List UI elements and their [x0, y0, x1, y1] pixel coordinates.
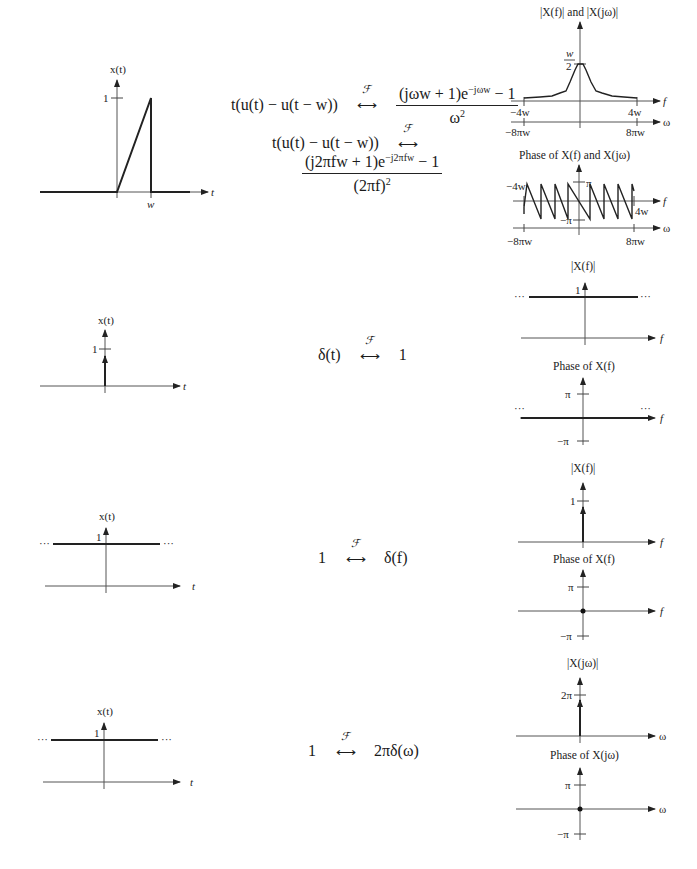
impulse-phase-plot: Phase of X(f) π −π ··· ··· f	[514, 360, 665, 447]
x-tick-label: w	[147, 198, 155, 210]
time-plot-title: x(t)	[99, 510, 115, 523]
ellipsis-right: ···	[640, 290, 651, 302]
f-tick-pos: 4w	[628, 106, 642, 118]
eq-lhs: 1	[308, 742, 316, 759]
ramp-magnitude-plot: |X(f)| and |X(jω)| w 2 −4w 4w −8πw 8πw f…	[505, 6, 670, 138]
fourier-arrow: ℱ⟷	[349, 348, 391, 365]
axis-label-t: t	[190, 776, 194, 788]
phase-omega-tick-neg: −8πw	[507, 235, 532, 247]
transform-symbol: ℱ	[334, 537, 376, 550]
denominator: ω	[449, 110, 460, 127]
eq-rhs: 2πδ(ω)	[374, 742, 419, 759]
phase-tick-pi: π	[565, 779, 571, 791]
numerator-exponent: −j2πfw	[385, 152, 414, 163]
zero-dot	[581, 609, 586, 614]
phase-omega-tick-pos: 8πw	[626, 235, 645, 247]
axis-label-f: f	[660, 536, 665, 548]
phase-tick-pi: π	[586, 177, 592, 189]
numerator-tail: − 1	[414, 153, 439, 170]
equation-constant-f: 1 ℱ⟷ δ(f)	[318, 549, 408, 568]
transform-symbol: ℱ	[349, 334, 391, 347]
eq-lhs: 1	[318, 549, 326, 566]
y-tick-num: w	[566, 47, 574, 59]
phase-title: Phase of X(f) and X(jω)	[519, 149, 630, 162]
ellipsis-left: ···	[37, 733, 48, 745]
y-tick-label: 2π	[561, 689, 573, 701]
phase-title: Phase of X(jω)	[550, 749, 619, 762]
denominator: (2πf)	[354, 178, 386, 195]
magnitude-title: |X(f)| and |X(jω)|	[540, 6, 618, 19]
axis-label-f: f	[660, 605, 665, 617]
impulse-time-plot: x(t) 1 t	[40, 314, 187, 393]
phase-title: Phase of X(f)	[553, 553, 615, 566]
time-plot-title: x(t)	[110, 63, 126, 76]
axis-label-f: f	[663, 95, 668, 107]
equation-ramp-f-lhs: t(u(t) − u(t − w)) ℱ⟷	[272, 134, 433, 153]
axis-label-t: t	[183, 380, 187, 392]
axis-label-t: t	[211, 186, 215, 198]
phase-tick-neg-pi: −π	[560, 630, 572, 642]
denominator-exponent: 2	[386, 176, 391, 187]
y-tick-label: 1	[94, 727, 100, 739]
phase-tick-neg-pi: −π	[557, 435, 569, 447]
ramp-signal	[40, 98, 190, 192]
eq-lhs: δ(t)	[318, 346, 341, 363]
constant-omega-time-plot: x(t) 1 ··· ··· t	[37, 705, 194, 789]
fourier-arrow: ℱ⟷	[324, 744, 366, 761]
phase-f-tick-pos: 4w	[635, 205, 649, 217]
numerator-tail: − 1	[490, 85, 515, 102]
constant-omega-phase-plot: Phase of X(jω) π −π ω	[516, 749, 666, 840]
axis-label-f: f	[660, 332, 665, 344]
ellipsis-left: ···	[514, 402, 525, 414]
axis-label-omega: ω	[659, 803, 666, 815]
phase-tick-neg-pi: −π	[557, 828, 569, 840]
fourier-arrow: ℱ⟷	[346, 97, 388, 114]
eq-lhs: t(u(t) − u(t − w))	[231, 96, 338, 113]
phase-tick-pi: π	[565, 388, 571, 400]
equation-impulse: δ(t) ℱ⟷ 1	[318, 346, 407, 365]
phase-tick-pi: π	[568, 581, 574, 593]
impulse-magnitude-plot: |X(f)| 1 ··· ··· f	[514, 260, 665, 345]
constant-f-magnitude-plot: |X(f)| 1 f	[518, 462, 665, 548]
ellipsis-right: ···	[163, 537, 174, 549]
axis-label-omega: ω	[659, 730, 666, 742]
numerator-exponent: −jωw	[468, 84, 490, 95]
transform-symbol: ℱ	[324, 730, 366, 743]
magnitude-title: |X(f)|	[571, 462, 595, 475]
fourier-arrow: ℱ⟷	[387, 136, 429, 153]
constant-f-phase-plot: Phase of X(f) π −π f	[518, 553, 665, 642]
omega-tick-neg: −8πw	[505, 126, 530, 138]
eq-rhs: 1	[399, 346, 407, 363]
numerator: (jωw + 1)e	[399, 85, 468, 102]
y-tick-label: 1	[96, 531, 102, 543]
phase-axis-label-f: f	[663, 195, 668, 207]
ellipsis-right: ···	[161, 733, 172, 745]
phase-tick-neg-pi: −π	[560, 214, 572, 226]
eq-rhs: δ(f)	[384, 549, 408, 566]
ramp-phase-plot: Phase of X(f) and X(jω) π −π −4w 4w −8πw…	[506, 149, 670, 247]
zero-dot	[578, 807, 583, 812]
transform-symbol: ℱ	[387, 122, 429, 135]
eq-fraction: (j2πfw + 1)e−j2πfw − 1 (2πf)2	[302, 152, 442, 196]
denominator-exponent: 2	[460, 108, 465, 119]
numerator: (j2πfw + 1)e	[305, 153, 385, 170]
phase-title: Phase of X(f)	[553, 360, 615, 373]
time-plot-title: x(t)	[98, 314, 114, 327]
axis-label-t: t	[192, 580, 196, 592]
y-tick-label: 1	[570, 495, 576, 507]
y-tick-den: 2	[566, 60, 572, 72]
time-plot-title: x(t)	[97, 705, 113, 718]
y-tick-label: 1	[575, 284, 581, 296]
constant-f-time-plot: x(t) 1 ··· ··· t	[39, 510, 196, 593]
constant-omega-magnitude-plot: |X(jω)| 2π ω	[516, 657, 666, 743]
magnitude-title: |X(f)|	[571, 260, 595, 273]
equation-constant-omega: 1 ℱ⟷ 2πδ(ω)	[308, 742, 419, 761]
ellipsis-left: ···	[39, 537, 50, 549]
ellipsis-left: ···	[514, 290, 525, 302]
y-tick-label: 1	[92, 343, 98, 355]
y-tick-label: 1	[103, 92, 109, 104]
omega-tick-pos: 8πw	[626, 126, 645, 138]
magnitude-title: |X(jω)|	[567, 657, 598, 670]
axis-label-f: f	[660, 412, 665, 424]
phase-f-tick-neg: −4w	[506, 180, 526, 192]
